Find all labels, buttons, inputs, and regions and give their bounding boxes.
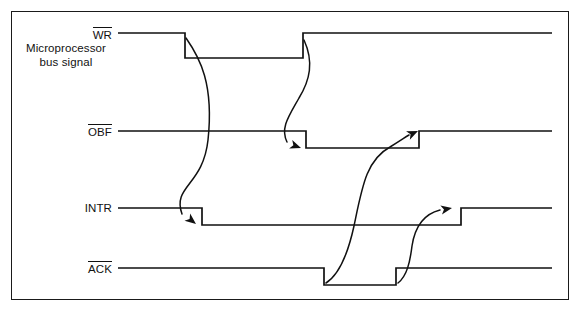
signal-label-intr: INTR — [40, 202, 112, 214]
signal-label-ack: ACK — [40, 261, 112, 275]
signal-label-wr: WR — [40, 27, 112, 41]
signal-label-obf: OBF — [40, 124, 112, 138]
bus-signal-note: Microprocessor bus signal — [20, 41, 112, 69]
signal-label-wr-text: WR — [93, 27, 112, 41]
signal-label-obf-text: OBF — [88, 124, 112, 138]
bus-signal-note-line1: Microprocessor — [20, 41, 112, 55]
bus-signal-note-line2: bus signal — [20, 55, 112, 69]
signal-label-intr-text: INTR — [85, 202, 112, 214]
timing-diagram-figure: WR Microprocessor bus signal OBF INTR AC… — [0, 0, 583, 312]
signal-label-ack-text: ACK — [88, 261, 112, 275]
